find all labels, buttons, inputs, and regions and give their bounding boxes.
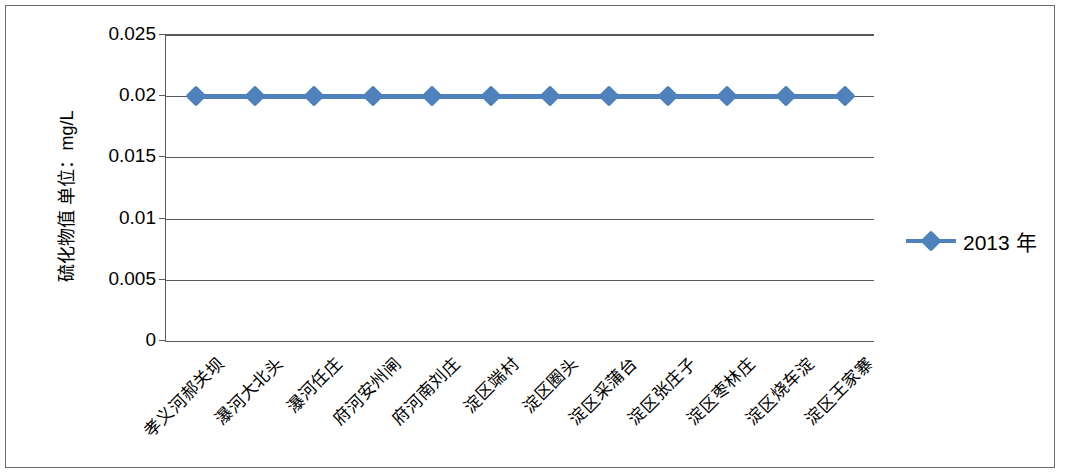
data-point-marker bbox=[539, 86, 560, 107]
gridline bbox=[166, 157, 874, 158]
data-point-marker bbox=[362, 86, 383, 107]
plot-area bbox=[165, 34, 874, 342]
gridline bbox=[166, 35, 874, 36]
data-point-marker bbox=[657, 86, 678, 107]
gridline bbox=[166, 219, 874, 220]
data-point-marker bbox=[775, 86, 796, 107]
x-axis-labels: 孝义河郝关坝瀑河大北头瀑河任庄府河安州闸府河南刘庄淀区端村淀区圈头淀区采蒲台淀区… bbox=[165, 342, 874, 472]
data-point-marker bbox=[244, 86, 265, 107]
gridline bbox=[166, 280, 874, 281]
y-tick-label: 0.015 bbox=[15, 145, 165, 167]
chart-frame: 硫化物值 单位：mg/L 00.0050.010.0150.020.025 孝义… bbox=[5, 5, 1055, 468]
y-tick-label: 0.025 bbox=[15, 23, 165, 45]
diamond-marker-icon bbox=[920, 230, 941, 251]
y-tick-label: 0.02 bbox=[15, 84, 165, 106]
chart-legend: 2013 年 bbox=[906, 224, 1037, 258]
data-point-marker bbox=[303, 86, 324, 107]
x-tick-label: 淀区端村 bbox=[456, 350, 523, 417]
x-tick-label: 孝义河郝关坝 bbox=[136, 350, 228, 442]
data-point-marker bbox=[834, 86, 855, 107]
data-point-marker bbox=[598, 86, 619, 107]
legend-label: 2013 年 bbox=[963, 226, 1037, 256]
y-axis-ticks: 00.0050.010.0150.020.025 bbox=[6, 34, 165, 342]
y-tick-label: 0.005 bbox=[15, 268, 165, 290]
series-line bbox=[196, 94, 845, 99]
data-point-marker bbox=[185, 86, 206, 107]
legend-marker-swatch bbox=[906, 232, 956, 250]
data-point-marker bbox=[480, 86, 501, 107]
y-tick-label: 0.01 bbox=[15, 207, 165, 229]
y-tick-label: 0 bbox=[15, 329, 165, 351]
data-point-marker bbox=[421, 86, 442, 107]
data-point-marker bbox=[716, 86, 737, 107]
